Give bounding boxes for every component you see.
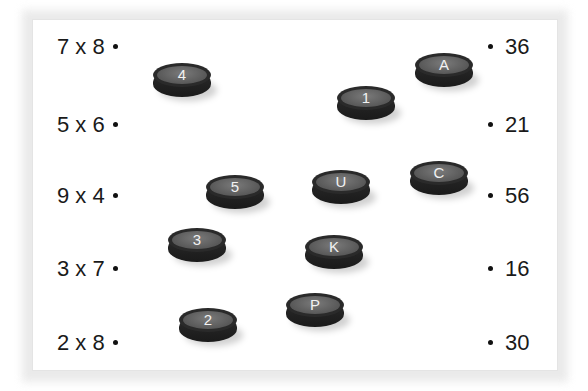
puck-k[interactable]: K [305,235,363,271]
connect-dot[interactable] [488,266,493,271]
puck-1[interactable]: 1 [337,86,395,122]
left-expression[interactable]: 7 x 8 [57,36,118,58]
left-expression[interactable]: 5 x 6 [57,114,118,136]
puck-label: 2 [183,311,233,329]
puck-label: C [414,164,464,182]
answer-text: 56 [505,183,529,208]
puck-u[interactable]: U [312,170,370,206]
puck-label: U [316,173,366,191]
puck-c[interactable]: C [410,161,468,197]
connect-dot[interactable] [113,193,118,198]
puck-2[interactable]: 2 [179,308,237,344]
right-answer[interactable]: 16 [488,258,529,280]
puck-label: K [309,238,359,256]
expression-text: 9 x 4 [57,183,105,208]
right-answer[interactable]: 21 [488,114,529,136]
puck-3[interactable]: 3 [168,228,226,264]
connect-dot[interactable] [488,44,493,49]
puck-5[interactable]: 5 [206,175,264,211]
puck-4[interactable]: 4 [153,63,211,99]
right-answer[interactable]: 56 [488,185,529,207]
expression-text: 2 x 8 [57,330,105,355]
connect-dot[interactable] [113,340,118,345]
answer-text: 16 [505,256,529,281]
expression-text: 7 x 8 [57,34,105,59]
answer-text: 30 [505,330,529,355]
expression-text: 3 x 7 [57,256,105,281]
left-expression[interactable]: 2 x 8 [57,332,118,354]
answer-text: 36 [505,34,529,59]
right-answer[interactable]: 36 [488,36,529,58]
puck-p[interactable]: P [286,293,344,329]
puck-label: P [290,296,340,314]
connect-dot[interactable] [113,122,118,127]
right-answer[interactable]: 30 [488,332,529,354]
connect-dot[interactable] [113,266,118,271]
puck-a[interactable]: A [415,53,473,89]
puck-label: 5 [210,178,260,196]
left-expression[interactable]: 9 x 4 [57,185,118,207]
left-expression[interactable]: 3 x 7 [57,258,118,280]
answer-text: 21 [505,112,529,137]
puck-label: A [419,56,469,74]
expression-text: 5 x 6 [57,112,105,137]
connect-dot[interactable] [488,193,493,198]
connect-dot[interactable] [113,44,118,49]
connect-dot[interactable] [488,122,493,127]
puck-label: 3 [172,231,222,249]
puck-label: 1 [341,89,391,107]
puck-label: 4 [157,66,207,84]
connect-dot[interactable] [488,340,493,345]
